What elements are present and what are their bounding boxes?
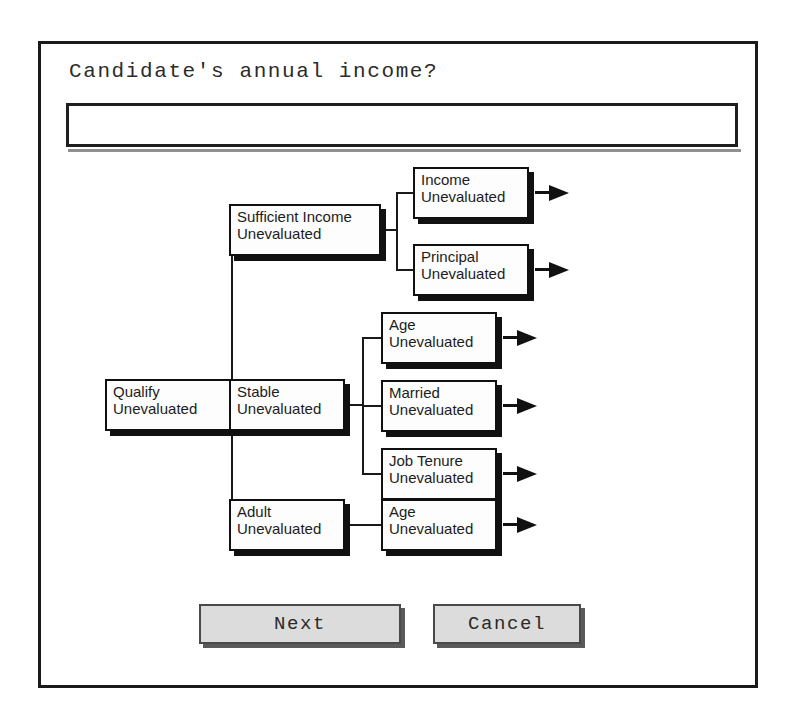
tree-node-job-tenure[interactable]: Job TenureUnevaluated: [381, 448, 497, 500]
arrow-tip: [517, 517, 537, 533]
connector-sufficient-income-stub: [381, 229, 397, 231]
connector-sufficient-income-to-income: [396, 192, 413, 194]
connector-stable-to-job-tenure: [362, 473, 381, 475]
connector-stable-stub: [345, 404, 363, 406]
tree-node-principal[interactable]: PrincipalUnevaluated: [413, 244, 529, 296]
tree-node-title: Job Tenure: [389, 452, 490, 469]
tree-node-state: Unevaluated: [421, 265, 522, 282]
tree-node-state: Unevaluated: [237, 520, 338, 537]
tree-node-title: Married: [389, 384, 490, 401]
decision-tree-diagram: QualifyUnevaluatedSufficient IncomeUneva…: [41, 44, 761, 691]
tree-node-title: Principal: [421, 248, 522, 265]
cancel-button[interactable]: Cancel: [433, 604, 581, 644]
tree-node-state: Unevaluated: [389, 401, 490, 418]
qualification-dialog-window: Candidate's annual income? QualifyUneval…: [38, 41, 758, 688]
tree-node-stable[interactable]: StableUnevaluated: [229, 379, 345, 431]
tree-node-state: Unevaluated: [237, 400, 338, 417]
arrow-tip: [549, 262, 569, 278]
tree-node-state: Unevaluated: [237, 225, 374, 242]
tree-node-state: Unevaluated: [389, 520, 490, 537]
tree-node-state: Unevaluated: [113, 400, 228, 417]
tree-node-title: Adult: [237, 503, 338, 520]
connector-sufficient-income-trunk: [396, 193, 398, 270]
connector-stable-to-age-stable: [362, 337, 381, 339]
tree-node-qualify[interactable]: QualifyUnevaluated: [105, 379, 235, 431]
tree-node-title: Qualify: [113, 383, 228, 400]
tree-node-state: Unevaluated: [421, 188, 522, 205]
tree-node-income[interactable]: IncomeUnevaluated: [413, 167, 529, 219]
tree-node-title: Income: [421, 171, 522, 188]
tree-node-state: Unevaluated: [389, 333, 490, 350]
connector-adult-stub: [345, 524, 363, 526]
tree-node-adult[interactable]: AdultUnevaluated: [229, 499, 345, 551]
connector-stable-to-married: [362, 405, 381, 407]
next-button[interactable]: Next: [199, 604, 401, 644]
arrow-tip: [517, 398, 537, 414]
dialog-button-bar: Next Cancel: [41, 604, 761, 664]
connector-sufficient-income-to-principal: [396, 269, 413, 271]
tree-node-sufficient-income[interactable]: Sufficient IncomeUnevaluated: [229, 204, 381, 256]
tree-node-title: Age: [389, 316, 490, 333]
tree-node-title: Age: [389, 503, 490, 520]
connector-adult-to-age-adult: [362, 524, 381, 526]
tree-node-title: Stable: [237, 383, 338, 400]
connector-qualify-trunk: [231, 230, 233, 525]
arrow-tip: [517, 330, 537, 346]
tree-node-state: Unevaluated: [389, 469, 490, 486]
arrow-tip: [517, 466, 537, 482]
tree-node-age-adult[interactable]: AgeUnevaluated: [381, 499, 497, 551]
tree-node-title: Sufficient Income: [237, 208, 374, 225]
tree-node-married[interactable]: MarriedUnevaluated: [381, 380, 497, 432]
arrow-tip: [549, 185, 569, 201]
tree-node-age-stable[interactable]: AgeUnevaluated: [381, 312, 497, 364]
